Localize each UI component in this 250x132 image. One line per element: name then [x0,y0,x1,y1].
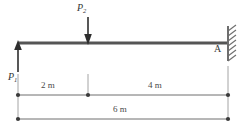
load-p1-label: P1 [8,72,17,82]
load-p2-arrow [84,17,92,45]
beam-diagram: P2 P1 A 2 m 4 m 6 m [0,0,250,132]
support-point-label-a: A [214,44,221,54]
dimension-label-6m: 6 m [111,105,129,114]
dimension-row-upper [16,93,230,97]
fixed-support-group [228,25,236,61]
load-p2-label: P2 [77,3,86,13]
load-p1-arrow [14,40,22,72]
dimension-label-4m: 4 m [146,81,164,90]
dimension-label-2m: 2 m [39,81,57,90]
dimension-row-lower [16,117,230,121]
support-hatching [228,25,236,61]
